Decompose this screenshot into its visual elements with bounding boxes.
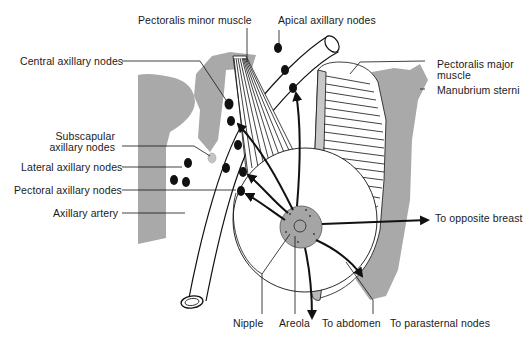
subscapular-nodes xyxy=(208,153,216,163)
label-pectoralis-major-line2: muscle xyxy=(437,69,471,81)
label-areola: Areola xyxy=(279,317,310,329)
label-central-axillary-nodes: Central axillary nodes xyxy=(20,55,123,67)
label-manubrium-sterni: Manubrium sterni xyxy=(437,84,520,96)
label-axillary-artery: Axillary artery xyxy=(53,207,118,219)
label-to-opposite-breast: To opposite breast xyxy=(435,212,523,224)
label-to-abdomen: To abdomen xyxy=(322,317,381,329)
label-pectoral-axillary-nodes: Pectoral axillary nodes xyxy=(14,184,122,196)
anatomy-diagram: Pectoralis minor muscle Apical axillary … xyxy=(0,0,529,339)
label-to-parasternal-nodes: To parasternal nodes xyxy=(390,317,490,329)
label-subscapular-line2: axillary nodes xyxy=(20,141,115,153)
label-nipple: Nipple xyxy=(233,317,263,329)
label-lateral-axillary-nodes: Lateral axillary nodes xyxy=(21,161,122,173)
label-apical-axillary-nodes: Apical axillary nodes xyxy=(278,14,376,26)
label-pectoralis-minor-muscle: Pectoralis minor muscle xyxy=(138,14,252,26)
